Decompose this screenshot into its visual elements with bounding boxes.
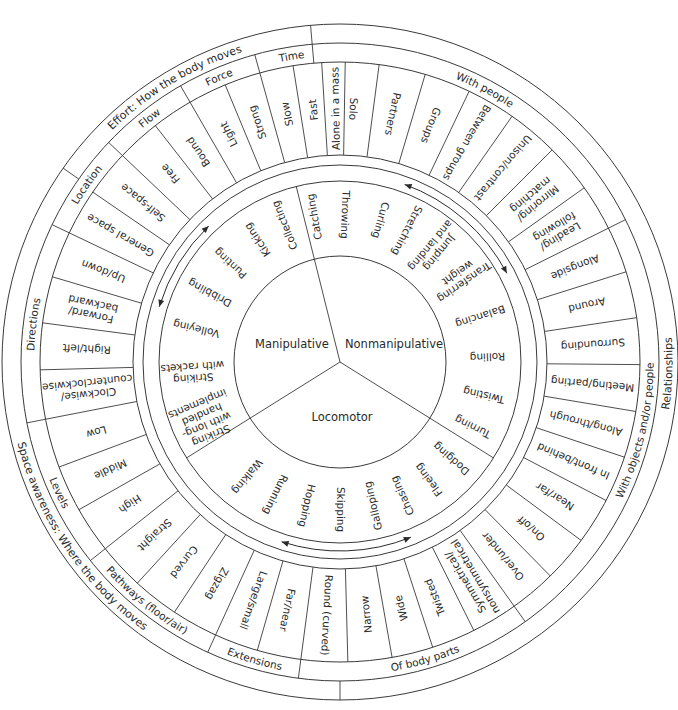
concept-cell-divider	[404, 559, 433, 647]
subgroup-divider	[312, 44, 314, 63]
svg-text:Curling: Curling	[370, 201, 392, 240]
concept-cell-label: Strong	[246, 104, 269, 141]
skill-label: Curling	[370, 201, 392, 240]
concept-cell-divider	[40, 367, 133, 369]
skill-label: Turning	[452, 413, 493, 441]
concept-cell-label: Clockwise/counterclockwise	[42, 373, 135, 406]
subgroup-label: Extensions	[226, 645, 283, 672]
concept-cell-label: Mirroring/matching	[507, 174, 561, 225]
svg-text:Groups: Groups	[419, 106, 444, 145]
svg-text:Volleying: Volleying	[172, 318, 221, 340]
core-label-manipulative: Manipulative	[255, 337, 329, 351]
concept-cell-divider	[547, 364, 640, 365]
locomotor-arrow-line	[282, 537, 411, 551]
svg-text:Slow: Slow	[278, 100, 295, 127]
svg-text:Between groups: Between groups	[441, 103, 494, 183]
concept-cell-label: Light	[217, 120, 239, 149]
concept-cell-label: Between groups	[441, 103, 494, 183]
svg-text:Collecting: Collecting	[269, 199, 300, 252]
concept-cell-divider	[46, 401, 137, 419]
subgroup-divider	[109, 142, 123, 155]
subgroup-label: Levels	[47, 476, 72, 511]
concept-cell-label: Slow	[278, 100, 295, 127]
category-divider	[63, 168, 79, 179]
skill-label: Hopping	[297, 483, 319, 528]
subgroup-divider	[255, 55, 260, 73]
svg-text:Twisting: Twisting	[462, 385, 507, 406]
skill-label: Balancing	[454, 303, 507, 330]
wheel-labels: SoloPartnersGroupsBetween groupsUnison/c…	[8, 37, 676, 695]
concept-cell-label: Fast	[306, 99, 320, 121]
skill-label: Fleeing	[412, 461, 445, 499]
concept-cell-divider	[376, 566, 392, 658]
concept-cell-label: Straight	[136, 517, 175, 554]
skill-label: Walking	[230, 457, 265, 497]
svg-text:Light: Light	[217, 120, 239, 149]
subgroup-divider	[52, 225, 69, 233]
svg-text:Hopping: Hopping	[297, 483, 319, 528]
skill-label: Punting	[211, 246, 249, 282]
svg-text:Catching: Catching	[304, 193, 324, 241]
concept-cell-label: High	[117, 492, 144, 515]
concept-cell-label: Alongside	[549, 252, 601, 282]
svg-text:Around: Around	[567, 295, 606, 315]
subgroup-divider	[90, 549, 105, 561]
concept-cell-label: Up/down	[79, 258, 126, 286]
svg-text:Galloping: Galloping	[361, 480, 384, 531]
svg-text:Fleeing: Fleeing	[412, 461, 445, 499]
concept-cell-label: Wide	[392, 594, 410, 622]
svg-text:Right/left: Right/left	[62, 342, 111, 357]
concept-cell-divider	[59, 434, 146, 467]
arrow-head-icon	[405, 184, 413, 190]
skill-label: Catching	[304, 193, 324, 241]
subgroup-label: Force	[203, 66, 234, 88]
core-label-locomotor: Locomotor	[311, 410, 372, 424]
svg-text:Along/through: Along/through	[548, 409, 623, 439]
top-category-label: Effort: How the body moves	[105, 42, 244, 132]
concept-cell-label: Meeting/parting	[550, 375, 634, 394]
subgroup-label: Time	[277, 48, 305, 64]
concept-cell-label: Free	[158, 162, 182, 187]
svg-text:Fast: Fast	[306, 99, 320, 121]
svg-text:Rolling: Rolling	[470, 351, 506, 364]
svg-text:Chasing: Chasing	[388, 474, 417, 517]
svg-text:Low: Low	[84, 424, 108, 441]
skill-label: Galloping	[361, 480, 384, 531]
svg-text:Walking: Walking	[230, 457, 265, 497]
svg-text:Surrounding: Surrounding	[560, 337, 625, 353]
top-category-label: Space awareness: Where the body moves	[15, 440, 151, 633]
concept-cell-label: Self-space	[118, 181, 167, 224]
svg-text:Throwing: Throwing	[339, 189, 353, 239]
svg-text:Up/down: Up/down	[79, 258, 126, 286]
svg-text:Dribbling: Dribbling	[186, 277, 234, 310]
skill-label: Running	[261, 473, 291, 517]
concept-cell-label: Right/left	[62, 342, 111, 357]
concept-cell-divider	[301, 567, 313, 659]
subgroup-divider	[514, 606, 525, 621]
svg-text:Alongside: Alongside	[549, 252, 601, 282]
svg-text:Punting: Punting	[211, 246, 249, 282]
svg-text:Curved: Curved	[168, 544, 201, 581]
svg-text:Self-space: Self-space	[118, 181, 167, 224]
svg-text:Solo: Solo	[347, 97, 360, 120]
category-divider	[311, 25, 313, 44]
skill-label: Throwing	[339, 189, 353, 239]
core-label-nonmanipulative: Nonmanipulative	[345, 337, 443, 351]
skill-label: Collecting	[269, 199, 300, 252]
svg-text:Narrow: Narrow	[358, 594, 374, 633]
concept-cell-label: Solo	[347, 97, 360, 120]
svg-text:Zigzag: Zigzag	[204, 566, 232, 603]
subgroup-divider	[27, 419, 46, 423]
svg-text:In front/behind: In front/behind	[535, 441, 611, 482]
svg-text:Straight: Straight	[136, 517, 175, 554]
svg-text:Dodging: Dodging	[430, 440, 471, 478]
concept-cell-label: In front/behind	[535, 441, 611, 482]
concept-cell-label: Leading/following	[531, 210, 584, 254]
concept-cell-label: Alone in a mass	[328, 67, 341, 150]
svg-text:Twisted: Twisted	[422, 577, 448, 618]
svg-text:Bound: Bound	[183, 135, 212, 170]
subgroup-divider	[181, 86, 191, 102]
skill-label: Dribbling	[186, 277, 234, 310]
svg-text:Kicking: Kicking	[242, 221, 273, 259]
svg-text:Far/near: Far/near	[277, 588, 298, 633]
